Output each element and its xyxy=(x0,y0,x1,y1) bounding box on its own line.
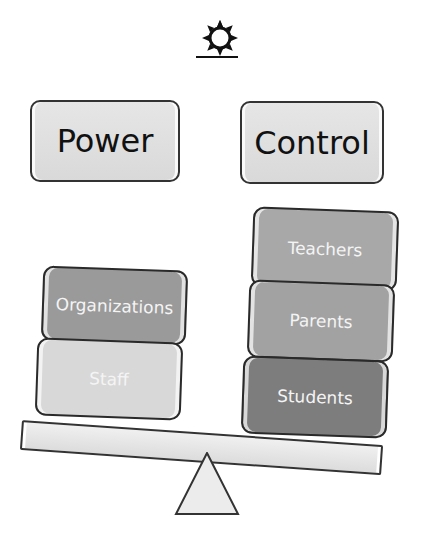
control-label-box: Control xyxy=(240,101,384,184)
students-block: Students xyxy=(241,355,390,438)
organizations-block: Organizations xyxy=(41,265,189,345)
parents-block: Parents xyxy=(247,279,396,362)
staff-block: Staff xyxy=(35,337,184,420)
teachers-block: Teachers xyxy=(251,206,400,291)
block-label: Teachers xyxy=(287,238,362,261)
fulcrum-triangle xyxy=(174,452,240,516)
control-label: Control xyxy=(254,124,370,162)
power-label-box: Power xyxy=(30,100,180,182)
power-label: Power xyxy=(57,122,154,160)
block-label: Students xyxy=(277,386,353,409)
block-label: Staff xyxy=(89,368,129,389)
sun-underline xyxy=(196,56,238,58)
block-label: Parents xyxy=(289,310,353,332)
block-label: Organizations xyxy=(55,293,173,317)
